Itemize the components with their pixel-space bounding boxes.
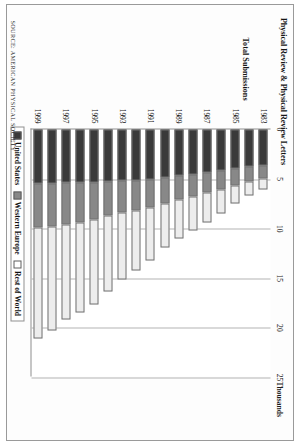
year-label-1987: 1987 (202, 108, 211, 123)
bar-segment-we[interactable] (146, 179, 155, 208)
bar-row[interactable] (230, 129, 239, 203)
bar-segment-us[interactable] (174, 129, 183, 175)
bar-segment-us[interactable] (188, 129, 197, 174)
bar-segment-rw[interactable] (47, 226, 56, 330)
title-line-2: Review (278, 48, 287, 73)
bar-row[interactable] (61, 129, 70, 319)
bar-segment-we[interactable] (160, 177, 169, 204)
bar-segment-rw[interactable] (258, 178, 267, 189)
bar-row[interactable] (131, 129, 140, 270)
bar-segment-rw[interactable] (202, 192, 211, 222)
bar-segment-we[interactable] (174, 175, 183, 200)
bar-row[interactable] (160, 129, 169, 247)
bar-row[interactable] (33, 129, 42, 338)
bar-segment-we[interactable] (188, 174, 197, 197)
bar-segment-we[interactable] (89, 182, 98, 220)
bar-segment-us[interactable] (244, 129, 253, 166)
bar-segment-us[interactable] (47, 129, 56, 183)
bar-segment-rw[interactable] (188, 196, 197, 230)
bar-segment-rw[interactable] (146, 207, 155, 260)
bar-segment-us[interactable] (33, 129, 42, 183)
bar-segment-we[interactable] (47, 183, 56, 227)
bar-segment-rw[interactable] (131, 210, 140, 270)
bar-row[interactable] (202, 129, 211, 222)
plot-area: Thousands 0510152025 1983198519871989199… (30, 128, 270, 376)
title-line-3: & (278, 75, 287, 82)
legend-label: Western Europe (13, 201, 22, 254)
gridline (31, 377, 270, 378)
bar-row[interactable] (146, 129, 155, 260)
bar-segment-rw[interactable] (103, 215, 112, 290)
bar-segment-us[interactable] (258, 129, 267, 165)
bar-segment-rw[interactable] (61, 224, 70, 319)
bar-segment-we[interactable] (33, 183, 42, 228)
bar-segment-us[interactable] (216, 129, 225, 170)
bar-segment-us[interactable] (146, 129, 155, 179)
bar-segment-us[interactable] (103, 129, 112, 181)
rotated-figure-stage: Physical Review & Physical Review Letter… (7, 8, 292, 438)
bar-segment-rw[interactable] (230, 185, 239, 204)
bar-row[interactable] (47, 129, 56, 330)
bar-segment-rw[interactable] (244, 181, 253, 196)
bar-segment-we[interactable] (216, 170, 225, 189)
bar-row[interactable] (188, 129, 197, 230)
year-label-1993: 1993 (117, 108, 126, 123)
year-label-1999: 1999 (33, 108, 42, 123)
bar-segment-we[interactable] (61, 182, 70, 225)
source-credit: SOURCE: AMERICAN PHYSICAL SOCIETY (9, 20, 16, 151)
chart-legend: United StatesWestern EuropeRest of World (10, 126, 24, 321)
bar-segment-rw[interactable] (89, 219, 98, 303)
bar-segment-we[interactable] (131, 180, 140, 211)
bar-segment-us[interactable] (202, 129, 211, 172)
bar-segment-us[interactable] (230, 129, 239, 168)
year-label-1997: 1997 (61, 108, 70, 123)
bar-segment-we[interactable] (103, 181, 112, 216)
bar-row[interactable] (89, 129, 98, 304)
title-line-5: Review (278, 113, 287, 138)
axis-unit-label: Thousands (274, 381, 283, 416)
subtitle-line-1: Total (240, 37, 249, 55)
bar-segment-rw[interactable] (216, 189, 225, 214)
bar-segment-rw[interactable] (160, 203, 169, 247)
bar-row[interactable] (117, 129, 126, 279)
bar-row[interactable] (174, 129, 183, 238)
bar-segment-rw[interactable] (174, 199, 183, 238)
bar-segment-us[interactable] (75, 129, 84, 182)
year-label-1989: 1989 (174, 108, 183, 123)
bar-segment-rw[interactable] (33, 227, 42, 338)
bar-segment-us[interactable] (131, 129, 140, 180)
subtitle-line-2: Submissions (240, 57, 249, 100)
title-line-1: Physical (278, 17, 287, 45)
x-tick-label: 10 (274, 224, 283, 232)
chart-subtitle: Total Submissions (239, 16, 248, 121)
bar-segment-we[interactable] (244, 166, 253, 181)
bar-row[interactable] (216, 129, 225, 213)
x-tick-label: 20 (274, 324, 283, 332)
bar-segment-us[interactable] (117, 129, 126, 180)
legend-label: Rest of World (13, 271, 22, 316)
year-label-1985: 1985 (230, 108, 239, 123)
bar-segment-we[interactable] (258, 165, 267, 178)
bar-segment-we[interactable] (75, 182, 84, 223)
x-tick-label: 15 (274, 274, 283, 282)
year-label-1995: 1995 (89, 108, 98, 123)
year-label-1983: 1983 (258, 108, 267, 123)
scanned-page: Physical Review & Physical Review Letter… (0, 0, 299, 446)
bar-segment-rw[interactable] (117, 212, 126, 278)
bar-segment-we[interactable] (202, 172, 211, 193)
bar-segment-us[interactable] (160, 129, 169, 177)
bar-series-group (31, 129, 270, 376)
bar-segment-we[interactable] (117, 180, 126, 213)
bar-row[interactable] (244, 129, 253, 195)
bar-segment-us[interactable] (89, 129, 98, 182)
bar-row[interactable] (75, 129, 84, 312)
legend-item-we[interactable]: Western Europe (13, 191, 22, 254)
bar-row[interactable] (258, 129, 267, 189)
bar-segment-us[interactable] (61, 129, 70, 182)
year-label-1991: 1991 (146, 108, 155, 123)
bar-segment-rw[interactable] (75, 222, 84, 311)
bar-segment-we[interactable] (230, 168, 239, 185)
x-tick-label: 0 (274, 127, 283, 131)
bar-row[interactable] (103, 129, 112, 291)
legend-item-rw[interactable]: Rest of World (13, 260, 22, 316)
